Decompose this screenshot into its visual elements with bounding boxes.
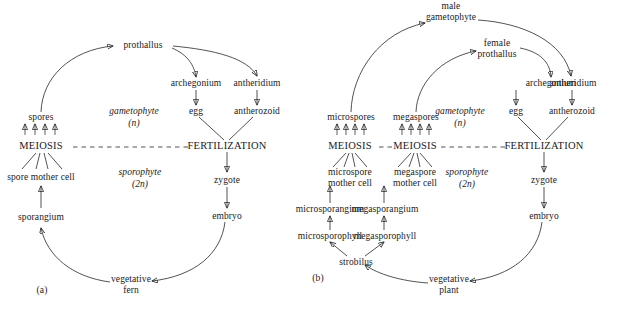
panel-caption-b: (b) xyxy=(312,273,323,284)
node-microsporophyll: microsporophyll xyxy=(298,231,362,242)
gametophyte-phase-label: gametophyte xyxy=(109,106,159,117)
sporophyte-phase-label: sporophyte xyxy=(119,167,162,178)
node-sporangium: sporangium xyxy=(18,212,64,223)
process-meiosis-mega: MEIOSIS xyxy=(393,141,436,152)
node-prothallus: prothallus xyxy=(124,40,163,51)
node-zygote: zygote xyxy=(531,175,557,186)
process-fertilization: FERTILIZATION xyxy=(505,141,584,152)
sporophyte-ploidy-label: (2n) xyxy=(459,179,475,190)
node-strobilus: strobilus xyxy=(339,257,373,268)
node-embryo: embryo xyxy=(212,211,242,222)
node-antherozoid: antherozoid xyxy=(234,106,280,117)
gametophyte-ploidy-label: (n) xyxy=(128,118,139,129)
node-egg: egg xyxy=(509,106,523,117)
panel-caption-a: (a) xyxy=(37,285,48,296)
sporophyte-ploidy-label: (2n) xyxy=(132,179,148,190)
node-antheridium: antheridium xyxy=(549,78,596,89)
node-antheridium: antheridium xyxy=(233,78,280,89)
node-spore-mother-cell: spore mother cell xyxy=(7,172,75,183)
node-female-prothallus: female prothallus xyxy=(478,38,517,59)
node-archegonium: archegonium xyxy=(171,78,222,89)
gametophyte-ploidy-label: (n) xyxy=(454,118,465,129)
node-zygote: zygote xyxy=(214,175,240,186)
node-egg: egg xyxy=(189,106,203,117)
sporophyte-phase-label: sporophyte xyxy=(446,167,489,178)
gametophyte-phase-label: gametophyte xyxy=(435,106,485,117)
node-megaspore-mother-cell: megaspore mother cell xyxy=(393,167,437,188)
node-embryo: embryo xyxy=(529,211,559,222)
process-meiosis: MEIOSIS xyxy=(19,141,62,152)
node-male-gametophyte: male gametophyte xyxy=(426,1,476,22)
node-vegetative-plant: vegetative plant xyxy=(429,274,469,295)
node-megasporangium: megasporangium xyxy=(352,204,419,215)
process-fertilization: FERTILIZATION xyxy=(188,141,267,152)
node-antherozoid: antherozoid xyxy=(549,106,595,117)
connector-layer xyxy=(0,0,626,315)
process-meiosis-micro: MEIOSIS xyxy=(328,141,371,152)
node-megaspores: megaspores xyxy=(393,112,439,123)
figure-canvas: prothallus archegonium antheridium egg a… xyxy=(0,0,626,315)
node-vegetative-fern: vegetative fern xyxy=(111,274,151,295)
node-microspores: microspores xyxy=(327,112,375,123)
node-microspore-mother-cell: microspore mother cell xyxy=(328,167,372,188)
node-megasporophyll: megasporophyll xyxy=(354,231,417,242)
node-spores: spores xyxy=(29,112,54,123)
